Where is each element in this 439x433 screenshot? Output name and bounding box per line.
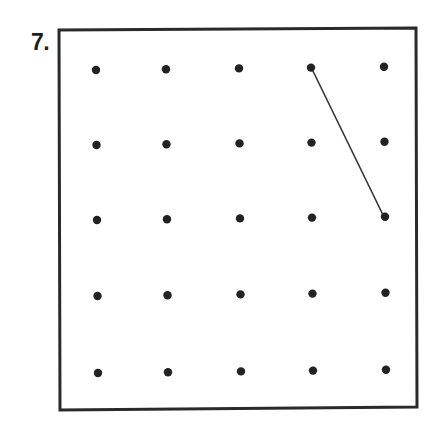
peg-dot — [162, 65, 170, 73]
peg-dot — [163, 291, 171, 299]
peg-dot — [307, 138, 315, 146]
peg-dot — [93, 292, 101, 300]
peg-dot — [94, 369, 102, 377]
peg-dot — [163, 215, 171, 223]
geoboard — [0, 0, 439, 433]
peg-dot — [236, 290, 244, 298]
peg-dot — [162, 140, 170, 148]
line-segment — [311, 67, 384, 217]
peg-dot — [235, 64, 243, 72]
peg-dot — [237, 367, 245, 375]
peg-dot — [164, 368, 172, 376]
peg-dot — [236, 214, 244, 222]
peg-dot — [309, 366, 317, 374]
peg-dot — [380, 138, 388, 146]
peg-dot — [381, 213, 389, 221]
peg-dot — [92, 141, 100, 149]
peg-grid — [92, 63, 390, 378]
drawn-segments — [311, 67, 384, 217]
peg-dot — [92, 66, 100, 74]
peg-dot — [308, 289, 316, 297]
peg-dot — [382, 366, 390, 374]
peg-dot — [381, 289, 389, 297]
peg-dot — [235, 139, 243, 147]
peg-dot — [308, 213, 316, 221]
peg-dot — [93, 216, 101, 224]
peg-dot — [307, 63, 315, 71]
peg-dot — [380, 63, 388, 71]
